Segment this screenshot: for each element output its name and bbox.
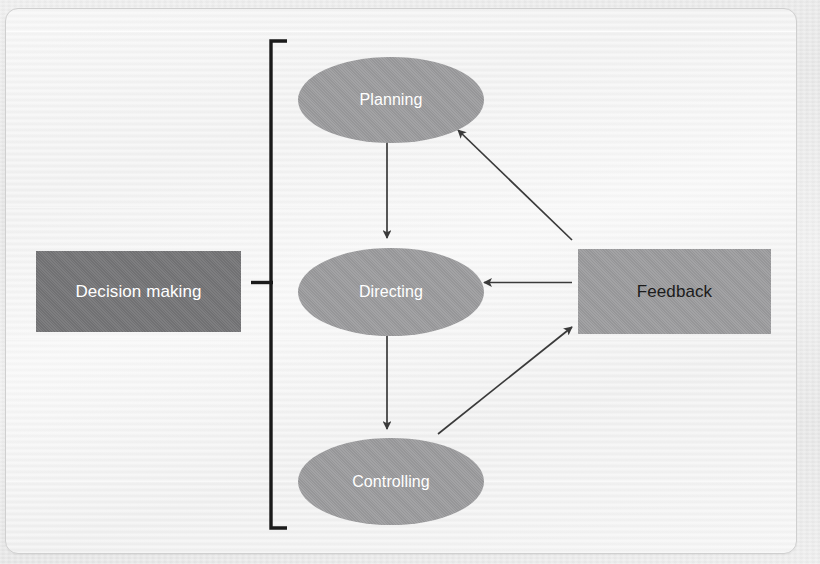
connector-feedback-to-planning	[458, 130, 572, 240]
node-controlling[interactable]: Controlling	[298, 438, 484, 525]
node-feedback-label: Feedback	[637, 282, 712, 302]
grouping-bracket	[251, 41, 287, 528]
diagram-canvas: Decision making Feedback Planning Direct…	[6, 9, 796, 553]
connector-controlling-to-feedback	[438, 327, 572, 434]
node-decision-making-label: Decision making	[75, 282, 201, 302]
node-planning-label: Planning	[359, 91, 422, 109]
node-decision-making[interactable]: Decision making	[36, 251, 241, 332]
node-planning[interactable]: Planning	[298, 57, 484, 143]
figure-frame: Decision making Feedback Planning Direct…	[5, 8, 797, 554]
scanned-page: Unit Cost amount the cost product	[0, 0, 820, 564]
node-directing-label: Directing	[359, 283, 423, 301]
node-directing[interactable]: Directing	[298, 248, 484, 336]
node-controlling-label: Controlling	[352, 473, 430, 491]
node-feedback[interactable]: Feedback	[578, 249, 771, 334]
